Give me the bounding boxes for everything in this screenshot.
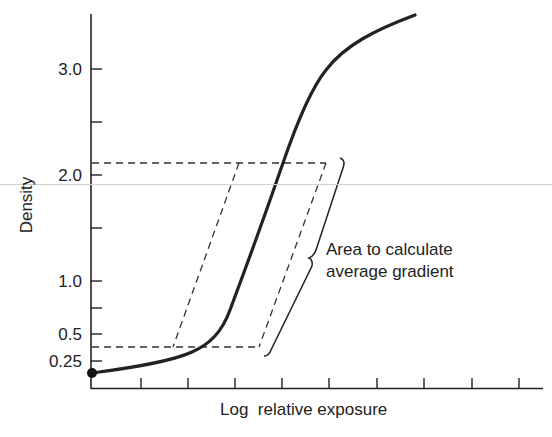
y-tick-label-1: 1.0 xyxy=(22,273,82,290)
x-axis-label: Log relative exposure xyxy=(220,400,387,420)
scan-artifact-line xyxy=(0,184,552,185)
characteristic-curve xyxy=(92,15,415,373)
annotation-line-1: Area to calculate xyxy=(326,239,454,261)
y-tick-label-3: 3.0 xyxy=(22,61,82,78)
curve-start-marker xyxy=(87,368,97,378)
characteristic-curve-chart xyxy=(0,0,552,437)
axes xyxy=(91,14,543,389)
y-ticks xyxy=(91,69,102,361)
y-tick-label-0-25: 0.25 xyxy=(22,353,82,370)
annotation-text: Area to calculate average gradient xyxy=(326,239,454,283)
annotation-line-2: average gradient xyxy=(326,261,454,283)
y-tick-label-0-5: 0.5 xyxy=(22,326,82,343)
x-ticks xyxy=(141,378,519,388)
gradient-region xyxy=(92,163,326,347)
y-axis-label: Density xyxy=(17,177,37,234)
right-slant xyxy=(259,163,326,347)
left-slant xyxy=(173,163,239,347)
